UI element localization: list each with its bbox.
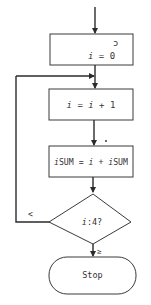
check-diamond: i:4? [49,194,131,244]
stop-terminal: Stop [49,257,136,294]
stop-label: Stop [82,270,102,280]
stray-dot [105,140,107,142]
init-faint-mark: ɔ [113,38,118,48]
increment-label: i = i + 1 [67,100,116,110]
accumulate-box: iSUM = i + iSUM [49,146,133,177]
flowchart: ɔ i = 0 i = i + 1 iSUM = i + iSUM i:4? < [0,0,151,305]
accumulate-label: iSUM = i + iSUM [54,157,128,167]
edge-label-less-than: < [28,210,33,219]
check-label: i:4? [82,217,102,227]
init-label: i = 0 [88,51,115,61]
init-box: ɔ i = 0 [50,34,133,65]
edge-label-greater-equal: ≥ [97,247,102,256]
increment-box: i = i + 1 [49,89,133,120]
